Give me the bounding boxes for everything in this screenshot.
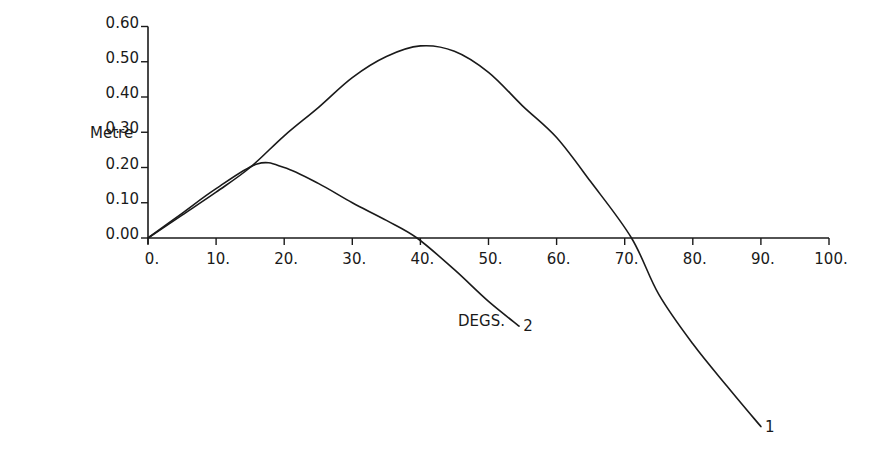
curve-1 bbox=[148, 46, 761, 427]
x-tick-label: 30. bbox=[342, 250, 366, 268]
x-tick-label: 100. bbox=[814, 250, 847, 268]
y-axis-title: Metre bbox=[90, 124, 133, 142]
x-axis-title: DEGS. bbox=[458, 312, 505, 330]
chart: 0.000.100.200.300.400.500.600.10.20.30.4… bbox=[0, 0, 871, 451]
x-tick-label: 70. bbox=[615, 250, 639, 268]
curves: 12 bbox=[148, 46, 774, 436]
x-tick-label: 0. bbox=[145, 250, 159, 268]
axes: 0.000.100.200.300.400.500.600.10.20.30.4… bbox=[106, 14, 848, 269]
y-tick-label: 0.10 bbox=[106, 190, 139, 208]
y-tick-label: 0.00 bbox=[106, 225, 139, 243]
curve-1-label: 1 bbox=[765, 418, 775, 436]
x-tick-label: 20. bbox=[274, 250, 298, 268]
x-tick-label: 50. bbox=[479, 250, 503, 268]
x-tick-label: 80. bbox=[683, 250, 707, 268]
y-tick-label: 0.40 bbox=[106, 84, 139, 102]
x-tick-label: 90. bbox=[751, 250, 775, 268]
line-chart-canvas: 0.000.100.200.300.400.500.600.10.20.30.4… bbox=[0, 0, 871, 451]
x-tick-label: 40. bbox=[410, 250, 434, 268]
x-tick-label: 10. bbox=[206, 250, 230, 268]
curve-2 bbox=[148, 163, 519, 326]
curve-2-label: 2 bbox=[523, 317, 533, 335]
y-tick-label: 0.50 bbox=[106, 49, 139, 67]
y-tick-label: 0.20 bbox=[106, 155, 139, 173]
x-tick-label: 60. bbox=[547, 250, 571, 268]
y-tick-label: 0.60 bbox=[106, 14, 139, 32]
